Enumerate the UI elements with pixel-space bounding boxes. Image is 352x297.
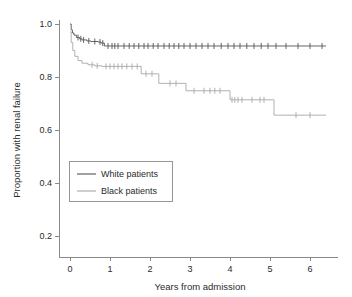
series-white-patients [70,24,326,49]
x-tick-label: 3 [187,264,192,274]
survival-curve [70,24,326,46]
y-tick-label: 1.0 [39,19,52,29]
chart-legend: White patientsBlack patients [69,161,172,201]
x-tick-label: 5 [267,264,272,274]
legend-label: White patients [101,169,159,179]
y-axis-title: Proportion with renal failure [11,82,22,198]
series-layer [70,24,326,118]
kaplan-meier-figure: 0.20.40.60.81.0 0123456 White patientsBl… [0,0,352,297]
y-tick-label: 0.6 [39,125,52,135]
x-tick-label: 0 [67,264,72,274]
x-tick-label: 1 [107,264,112,274]
y-axis: 0.20.40.60.81.0 [39,19,59,257]
y-tick-label: 0.4 [39,178,52,188]
y-tick-label: 0.2 [39,231,52,241]
x-tick-label: 4 [227,264,232,274]
x-axis-title: Years from admission [155,281,246,292]
legend-label: Black patients [101,186,158,196]
x-axis: 0123456 [59,257,338,274]
x-tick-label: 2 [147,264,152,274]
x-tick-label: 6 [307,264,312,274]
y-tick-label: 0.8 [39,72,52,82]
chart-canvas: 0.20.40.60.81.0 0123456 White patientsBl… [0,0,352,297]
